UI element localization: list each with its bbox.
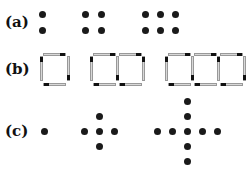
- row-b-label: (b): [5, 60, 30, 78]
- row-a-label: (a): [5, 13, 29, 31]
- row-c-label: (c): [5, 122, 28, 140]
